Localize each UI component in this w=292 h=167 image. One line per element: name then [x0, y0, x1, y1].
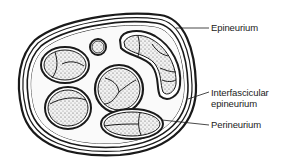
- label-interfascicular-epineurium: Interfascicular epineurium: [211, 87, 269, 109]
- label-perineurium: Perineurium: [211, 119, 261, 130]
- label-interfascicular-line1: Interfascicular: [211, 87, 269, 98]
- label-interfascicular-line2: epineurium: [211, 98, 269, 109]
- label-epineurium: Epineurium: [211, 22, 258, 33]
- nerve-cross-section-diagram: Epineurium Interfascicular epineurium Pe…: [0, 0, 292, 167]
